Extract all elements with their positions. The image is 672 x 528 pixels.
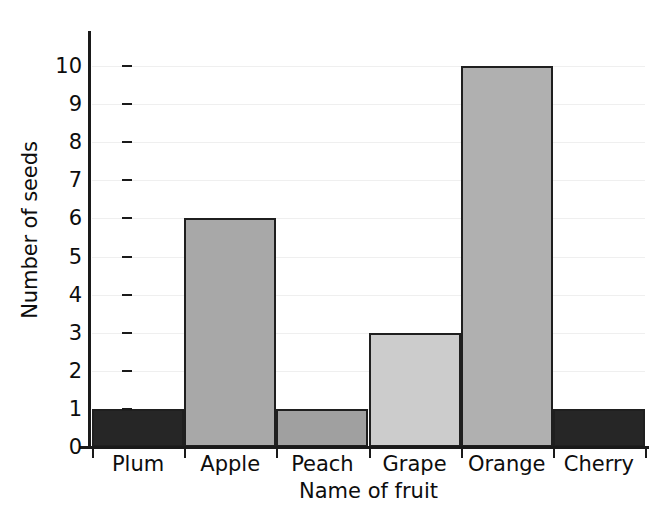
y-tick-label: 9 bbox=[48, 94, 82, 115]
y-axis-line bbox=[88, 31, 91, 449]
y-tick-mark bbox=[122, 408, 132, 410]
y-tick-label: 5 bbox=[48, 247, 82, 268]
y-tick-mark bbox=[122, 332, 132, 334]
gridline bbox=[92, 104, 645, 105]
gridline bbox=[92, 66, 645, 67]
plot-area bbox=[92, 31, 645, 447]
y-tick-label: 8 bbox=[48, 132, 82, 153]
x-category-label-apple: Apple bbox=[184, 452, 276, 476]
y-tick-mark bbox=[122, 256, 132, 258]
x-category-label-grape: Grape bbox=[369, 452, 461, 476]
y-axis-ticks: 012345678910 bbox=[38, 0, 82, 528]
bar-grape bbox=[369, 333, 461, 447]
x-category-label-cherry: Cherry bbox=[553, 452, 645, 476]
y-tick-mark bbox=[122, 65, 132, 67]
y-tick-label: 1 bbox=[48, 399, 82, 420]
y-tick-mark bbox=[122, 179, 132, 181]
gridline bbox=[92, 142, 645, 143]
gridline bbox=[92, 257, 645, 258]
gridline bbox=[92, 180, 645, 181]
y-tick-mark bbox=[122, 217, 132, 219]
y-tick-mark bbox=[122, 141, 132, 143]
bar-orange bbox=[461, 66, 553, 447]
gridline bbox=[92, 295, 645, 296]
y-tick-label: 7 bbox=[48, 170, 82, 191]
x-category-label-orange: Orange bbox=[461, 452, 553, 476]
y-tick-label: 0 bbox=[48, 437, 82, 458]
y-tick-mark bbox=[122, 294, 132, 296]
gridline bbox=[92, 218, 645, 219]
x-axis-line bbox=[80, 446, 649, 449]
bar-apple bbox=[184, 218, 276, 447]
y-tick-label: 4 bbox=[48, 285, 82, 306]
bar-plum bbox=[92, 409, 184, 447]
x-tick-mark bbox=[645, 447, 647, 458]
bar-cherry bbox=[553, 409, 645, 447]
bar-chart: Number of seeds 012345678910 PlumApplePe… bbox=[0, 0, 672, 528]
x-axis-title: Name of fruit bbox=[92, 479, 645, 503]
y-tick-mark bbox=[122, 446, 132, 448]
x-category-label-peach: Peach bbox=[276, 452, 368, 476]
y-tick-mark bbox=[122, 103, 132, 105]
y-tick-label: 2 bbox=[48, 361, 82, 382]
y-tick-label: 10 bbox=[48, 56, 82, 77]
y-tick-label: 6 bbox=[48, 208, 82, 229]
bar-peach bbox=[276, 409, 368, 447]
y-tick-mark bbox=[122, 370, 132, 372]
y-tick-label: 3 bbox=[48, 323, 82, 344]
x-category-label-plum: Plum bbox=[92, 452, 184, 476]
